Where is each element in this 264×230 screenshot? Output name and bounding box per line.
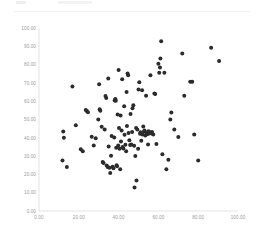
y-tick-label: 40.00 <box>24 136 36 141</box>
data-point <box>124 149 128 153</box>
data-point <box>127 131 131 135</box>
data-point <box>158 56 162 60</box>
header-strip <box>0 0 264 12</box>
data-point <box>217 59 221 63</box>
data-point <box>98 109 102 113</box>
y-tick-label: 30.00 <box>24 154 36 159</box>
data-point <box>158 66 162 70</box>
data-point <box>118 167 122 171</box>
data-point <box>157 71 161 75</box>
data-point <box>120 77 124 81</box>
data-point <box>137 87 141 91</box>
data-point <box>104 96 108 100</box>
x-tick-label: 100.00 <box>231 215 246 220</box>
data-point <box>81 149 85 153</box>
data-point <box>61 130 65 134</box>
data-point <box>162 71 166 75</box>
data-point <box>144 94 148 98</box>
data-point <box>135 179 139 183</box>
y-axis-tick-labels: 0.0010.0020.0030.0040.0050.0060.0070.008… <box>21 26 36 214</box>
data-point <box>122 104 126 108</box>
data-point <box>159 39 163 43</box>
data-point <box>125 124 129 128</box>
data-point <box>123 133 127 137</box>
y-tick-label: 100.00 <box>21 26 36 31</box>
data-point <box>146 142 150 146</box>
y-tick-label: 50.00 <box>24 117 36 122</box>
data-point <box>92 143 96 147</box>
scatter-chart: 0.0010.0020.0030.0040.0050.0060.0070.008… <box>0 12 264 230</box>
x-tick-label: 0.00 <box>34 215 44 220</box>
x-tick-label: 40.00 <box>113 215 125 220</box>
data-point <box>90 135 94 139</box>
data-point <box>153 92 157 96</box>
data-point <box>133 186 137 190</box>
data-point <box>139 139 143 143</box>
chart-container: 0.0010.0020.0030.0040.0050.0060.0070.008… <box>0 12 264 230</box>
data-point <box>168 118 172 122</box>
data-point <box>182 94 186 98</box>
data-point <box>132 144 136 148</box>
data-point <box>109 154 113 158</box>
y-tick-label: 90.00 <box>24 44 36 49</box>
data-point <box>106 77 110 81</box>
data-point <box>70 85 74 89</box>
data-point <box>129 112 133 116</box>
data-point <box>112 135 116 139</box>
y-tick-label: 80.00 <box>24 62 36 67</box>
x-tick-label: 20.00 <box>73 215 85 220</box>
data-point <box>140 88 144 92</box>
data-point <box>190 80 194 84</box>
data-point <box>96 118 100 122</box>
x-tick-label: 60.00 <box>152 215 164 220</box>
data-point <box>86 110 90 114</box>
data-point <box>126 73 130 77</box>
data-point <box>65 165 69 169</box>
y-tick-label: 10.00 <box>24 190 36 195</box>
data-point <box>94 136 98 140</box>
data-point <box>136 147 140 151</box>
data-point <box>137 80 141 84</box>
data-point <box>120 128 124 132</box>
scatter-plot-page: 0.0010.0020.0030.0040.0050.0060.0070.008… <box>0 0 264 230</box>
data-point <box>117 68 121 72</box>
x-axis-tick-labels: 0.0020.0040.0060.0080.00100.00 <box>34 215 245 220</box>
data-point <box>115 164 119 168</box>
data-point <box>148 73 152 77</box>
data-point <box>176 135 180 139</box>
data-point <box>135 127 139 131</box>
data-point <box>164 167 168 171</box>
y-tick-label: 0.00 <box>27 209 37 214</box>
data-point <box>119 139 123 143</box>
data-point <box>97 82 101 86</box>
data-point <box>127 138 131 142</box>
y-tick-label: 60.00 <box>24 99 36 104</box>
x-tick-label: 80.00 <box>192 215 204 220</box>
data-point <box>62 136 66 140</box>
data-point <box>74 123 78 127</box>
data-point <box>156 62 160 66</box>
data-point <box>169 111 173 115</box>
data-point <box>130 130 134 134</box>
data-point <box>154 142 158 146</box>
data-point <box>141 124 145 128</box>
y-tick-label: 20.00 <box>24 172 36 177</box>
data-point <box>103 127 107 131</box>
data-point <box>160 152 164 156</box>
data-point <box>111 166 115 170</box>
data-point <box>172 127 176 131</box>
y-tick-label: 70.00 <box>24 81 36 86</box>
header-ghost-label <box>58 1 92 4</box>
data-point <box>107 145 111 149</box>
data-point <box>108 171 112 175</box>
data-point <box>166 158 170 162</box>
data-point <box>151 133 155 137</box>
data-point <box>119 113 123 117</box>
data-points-group <box>60 39 221 189</box>
header-ghost-icon <box>16 1 26 4</box>
data-point <box>123 143 127 147</box>
data-point <box>180 52 184 56</box>
data-point <box>101 161 105 165</box>
data-point <box>209 46 213 50</box>
data-point <box>114 99 118 103</box>
